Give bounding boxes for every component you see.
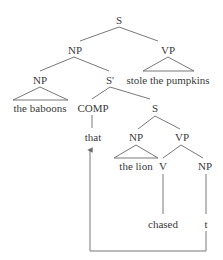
- node-vp-embedded: VP: [175, 131, 189, 143]
- edge-s-np: [80, 27, 119, 41]
- leaf-the-baboons: the baboons: [14, 102, 67, 114]
- leaf-stole-the-pumpkins: stole the pumpkins: [126, 74, 209, 86]
- triangle-np-baboons: [13, 87, 68, 100]
- edge-sbar-comp: [92, 87, 110, 99]
- node-s-embedded: S: [152, 102, 158, 114]
- edge-s-vp: [119, 27, 158, 41]
- tree-labels: S NP VP NP S' stole the pumpkins the bab…: [14, 14, 212, 230]
- triangle-np-lion: [114, 145, 158, 158]
- edge-vp-np: [181, 145, 203, 158]
- edge-vp-v: [163, 145, 181, 158]
- node-np-object: NP: [198, 160, 212, 172]
- syntax-tree-diagram: S NP VP NP S' stole the pumpkins the bab…: [0, 0, 223, 260]
- edge-sbar-s: [110, 87, 150, 99]
- node-vp-main: VP: [161, 44, 175, 56]
- edge-s-vp-embedded: [155, 116, 180, 129]
- triangle-vp: [143, 57, 194, 71]
- leaf-the-lion: the lion: [119, 160, 153, 172]
- node-np-embedded: NP: [129, 131, 143, 143]
- edge-np-sbar: [74, 57, 109, 71]
- node-np-subject: NP: [68, 44, 82, 56]
- node-s-bar: S': [106, 74, 114, 86]
- node-v: V: [159, 160, 167, 172]
- tree-edges: [13, 27, 206, 214]
- node-comp: COMP: [77, 102, 108, 114]
- node-s-root: S: [116, 14, 122, 26]
- node-np-head: NP: [33, 74, 47, 86]
- leaf-that: that: [85, 131, 102, 143]
- leaf-trace: t: [204, 218, 207, 230]
- edge-np-np: [40, 57, 74, 71]
- leaf-chased: chased: [148, 218, 178, 230]
- edge-s-np-embedded: [138, 116, 155, 129]
